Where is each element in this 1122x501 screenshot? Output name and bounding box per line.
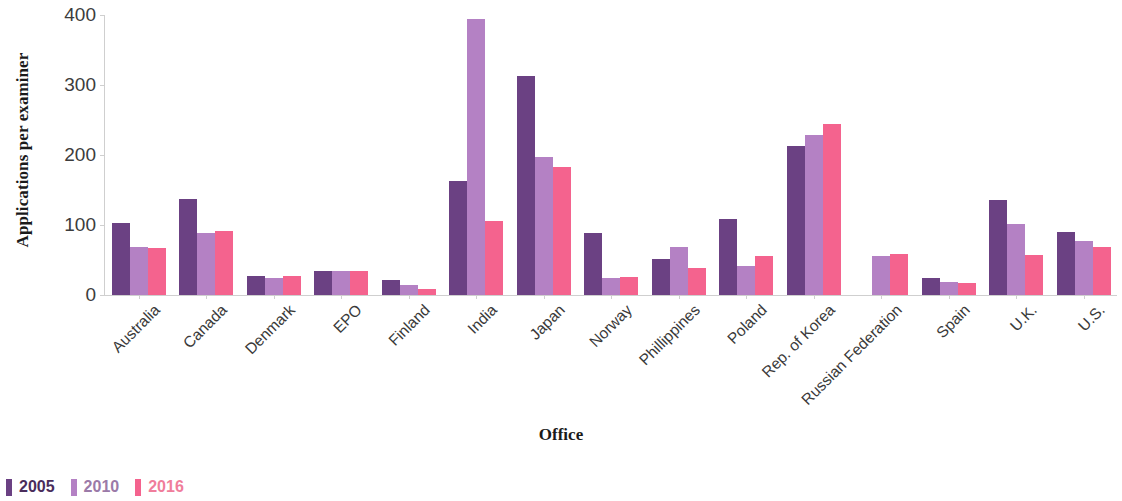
bar xyxy=(314,271,332,296)
x-tick-label: Canada xyxy=(180,301,231,352)
x-tick-label-text: Poland xyxy=(724,301,771,348)
bar xyxy=(652,259,670,295)
x-tick-label-text: Japan xyxy=(526,301,569,344)
bar xyxy=(332,271,350,296)
bar xyxy=(553,167,571,295)
bar xyxy=(1025,255,1043,295)
y-axis-title: Applications per examiner xyxy=(8,0,38,300)
x-tick-label-text: U.K. xyxy=(1007,301,1041,335)
x-tick-label-text: Norway xyxy=(586,301,636,351)
bar xyxy=(535,157,553,295)
bar-group xyxy=(314,15,368,295)
bar-group xyxy=(179,15,233,295)
bar xyxy=(1075,241,1093,295)
x-tick-mark xyxy=(1084,295,1085,299)
x-tick-label: EPO xyxy=(330,301,366,337)
bar-group xyxy=(854,15,908,295)
bar xyxy=(922,278,940,296)
bar-group xyxy=(787,15,841,295)
bar xyxy=(737,266,755,295)
x-tick-label: Phillippines xyxy=(635,301,703,369)
y-tick-mark-400 xyxy=(100,15,105,16)
legend-swatch-icon xyxy=(71,479,77,496)
y-tick-label-0: 0 xyxy=(50,284,96,306)
legend-swatch-icon xyxy=(6,479,12,496)
x-axis-title: Office xyxy=(0,425,1122,445)
legend-item-2016[interactable]: 2016 xyxy=(135,478,184,496)
y-tick-mark-100 xyxy=(100,225,105,226)
legend-label: 2016 xyxy=(148,478,184,496)
bar xyxy=(400,285,418,295)
x-tick-mark xyxy=(881,295,882,299)
legend-label: 2005 xyxy=(19,478,55,496)
bar-group xyxy=(517,15,571,295)
bar-group xyxy=(112,15,166,295)
bar xyxy=(517,76,535,295)
bar xyxy=(755,256,773,295)
bar xyxy=(215,231,233,295)
y-tick-label-100: 100 xyxy=(50,214,96,236)
bar xyxy=(958,283,976,295)
bar xyxy=(602,278,620,295)
bar xyxy=(148,248,166,295)
bar xyxy=(247,276,265,295)
x-tick-label-text: Canada xyxy=(180,301,231,352)
legend-item-2010[interactable]: 2010 xyxy=(71,478,120,496)
bar-group xyxy=(719,15,773,295)
bar xyxy=(620,277,638,295)
bar xyxy=(584,233,602,295)
chart-legend: 200520102016 xyxy=(6,478,200,496)
y-tick-mark-300 xyxy=(100,85,105,86)
x-tick-label: Japan xyxy=(526,301,569,344)
bar-group xyxy=(247,15,301,295)
bar xyxy=(787,146,805,295)
bar xyxy=(719,219,737,295)
bar-group xyxy=(1057,15,1111,295)
x-tick-label-text: EPO xyxy=(330,301,366,337)
x-tick-mark xyxy=(274,295,275,299)
bar xyxy=(197,233,215,295)
x-tick-label-text: U.S. xyxy=(1074,301,1108,335)
bar xyxy=(823,124,841,295)
bar xyxy=(467,19,485,296)
x-tick-label: Norway xyxy=(586,301,636,351)
y-tick-label-300: 300 xyxy=(50,74,96,96)
x-tick-mark xyxy=(949,295,950,299)
x-tick-mark xyxy=(611,295,612,299)
legend-item-2005[interactable]: 2005 xyxy=(6,478,55,496)
legend-label: 2010 xyxy=(84,478,120,496)
bar-group xyxy=(382,15,436,295)
bar xyxy=(265,278,283,296)
bar xyxy=(890,254,908,295)
plot-area: 0100200300400 xyxy=(105,15,1117,295)
x-tick-mark xyxy=(1016,295,1017,299)
x-tick-label: U.K. xyxy=(1007,301,1041,335)
bar xyxy=(350,271,368,296)
bar xyxy=(485,221,503,295)
bar-group xyxy=(989,15,1043,295)
bar xyxy=(1007,224,1025,295)
bar-group xyxy=(922,15,976,295)
bar xyxy=(688,268,706,295)
x-tick-label-text: Denmark xyxy=(241,301,298,358)
x-tick-mark xyxy=(679,295,680,299)
bar xyxy=(179,199,197,295)
x-tick-mark xyxy=(139,295,140,299)
x-tick-label: Finland xyxy=(385,301,434,350)
bar xyxy=(1057,232,1075,295)
x-tick-label-text: India xyxy=(465,301,502,338)
y-tick-mark-0 xyxy=(100,295,105,296)
bar-group xyxy=(584,15,638,295)
x-tick-label-text: Spain xyxy=(933,301,974,342)
bar xyxy=(805,135,823,295)
bar xyxy=(130,247,148,295)
bar xyxy=(449,181,467,295)
bar xyxy=(112,223,130,295)
x-tick-mark xyxy=(341,295,342,299)
x-tick-label: Spain xyxy=(933,301,974,342)
x-tick-mark xyxy=(476,295,477,299)
y-tick-label-400: 400 xyxy=(50,4,96,26)
x-tick-label: Poland xyxy=(724,301,771,348)
bar xyxy=(283,276,301,295)
x-tick-label: India xyxy=(465,301,502,338)
